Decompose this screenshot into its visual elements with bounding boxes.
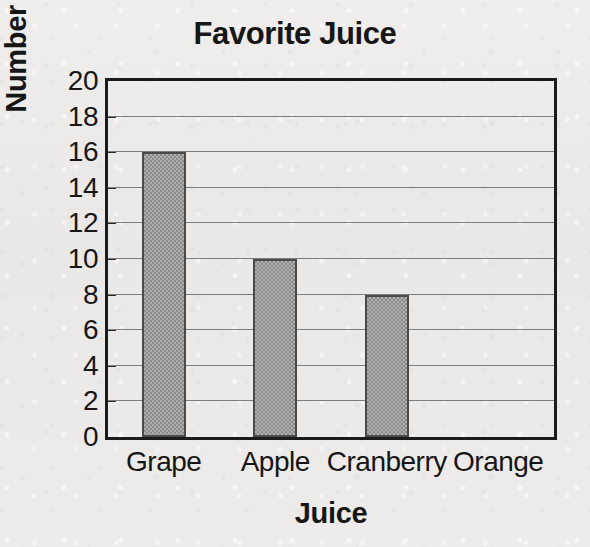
y-axis-tick-label-10: 10 bbox=[0, 243, 98, 275]
y-axis-tick-label-2: 2 bbox=[0, 385, 98, 417]
y-axis-tick-label-20: 20 bbox=[0, 65, 98, 97]
y-axis-tick-label-12: 12 bbox=[0, 207, 98, 239]
bar-apple bbox=[253, 259, 297, 437]
y-axis-tick-label-4: 4 bbox=[0, 350, 98, 382]
x-axis-category-label-apple: Apple bbox=[241, 446, 310, 478]
y-axis-tick-label-18: 18 bbox=[0, 101, 98, 133]
x-axis-category-label-cranberry: Cranberry bbox=[327, 446, 447, 478]
x-axis-category-label-orange: Orange bbox=[453, 446, 543, 478]
y-axis-tick-label-14: 14 bbox=[0, 172, 98, 204]
y-axis-tick-label-8: 8 bbox=[0, 279, 98, 311]
bar-chart-favorite-juice: Favorite Juice Number of Votes Juice 024… bbox=[0, 0, 590, 547]
gridline-18 bbox=[108, 116, 554, 117]
y-axis-tick-label-0: 0 bbox=[0, 421, 98, 453]
bar-grape bbox=[142, 152, 186, 437]
x-axis-category-label-grape: Grape bbox=[126, 446, 201, 478]
plot-inner bbox=[108, 81, 554, 437]
plot-area bbox=[105, 78, 557, 440]
chart-title: Favorite Juice bbox=[0, 16, 590, 52]
x-axis-label: Juice bbox=[105, 497, 557, 530]
y-axis-tick-label-6: 6 bbox=[0, 314, 98, 346]
y-axis-tick-label-16: 16 bbox=[0, 136, 98, 168]
bar-cranberry bbox=[365, 295, 409, 437]
